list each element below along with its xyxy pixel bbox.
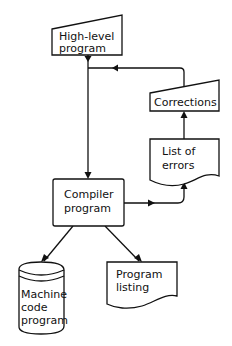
- node-compiler-program: Compiler program: [53, 179, 124, 226]
- node-label: errors: [162, 159, 195, 172]
- edge-corrections-to-compiler: [88, 65, 184, 87]
- node-label: Compiler: [64, 188, 114, 201]
- edge-errors-to-corrections: [181, 111, 188, 139]
- node-label: code: [21, 301, 48, 314]
- edge-compiler-to-listing: [105, 226, 142, 262]
- node-label: program: [64, 202, 111, 215]
- node-high-level-program: High-level program: [52, 15, 122, 55]
- node-label: Machine: [21, 288, 67, 301]
- node-label: program: [21, 314, 68, 327]
- node-label: List of: [162, 145, 196, 158]
- flowchart-canvas: High-level program Corrections List of e…: [0, 0, 232, 346]
- node-machine-code-program: Machine code program: [19, 262, 68, 334]
- node-label: Program: [116, 268, 162, 281]
- edge-compiler-to-machinecode: [41, 226, 73, 262]
- node-program-listing: Program listing: [107, 262, 177, 308]
- node-label: listing: [116, 281, 149, 294]
- node-label: program: [59, 42, 106, 55]
- edge-highlevel-to-compiler: [85, 55, 92, 179]
- node-label: Corrections: [154, 96, 217, 109]
- node-list-of-errors: List of errors: [150, 139, 219, 186]
